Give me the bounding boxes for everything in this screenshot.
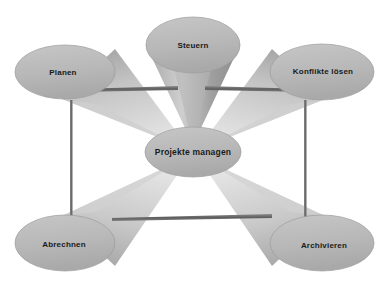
connector-left-bar	[70, 100, 73, 220]
node-abrechnen[interactable]	[15, 215, 115, 271]
node-archivieren[interactable]	[270, 215, 374, 271]
node-projekte-managen[interactable]	[145, 127, 241, 177]
node-konflikte-loesen[interactable]	[270, 44, 374, 100]
node-planen[interactable]	[15, 45, 115, 99]
diagram-graphics	[0, 0, 383, 286]
diagram-canvas: Planen Steuern Konflikte lösen Abrechnen…	[0, 0, 383, 286]
node-steuern[interactable]	[146, 17, 240, 73]
connector-right-bar	[304, 100, 307, 218]
